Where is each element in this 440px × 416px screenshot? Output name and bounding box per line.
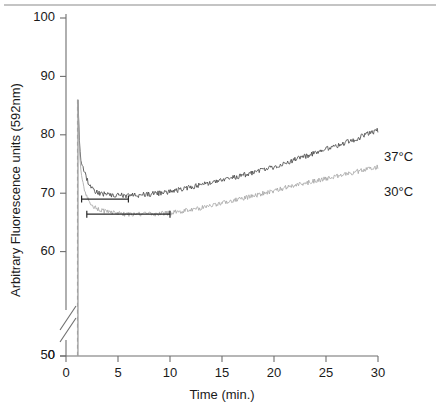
y-axis-ticks: 05060708090100 bbox=[33, 9, 66, 362]
x-tick-label: 25 bbox=[319, 365, 333, 380]
series-labels: 37°C 30°C bbox=[384, 149, 413, 199]
x-tick-label: 20 bbox=[267, 365, 281, 380]
x-tick-label: 10 bbox=[163, 365, 177, 380]
x-tick-label: 0 bbox=[62, 365, 69, 380]
axis-break-mark-upper bbox=[60, 306, 76, 330]
x-tick-label: 15 bbox=[215, 365, 229, 380]
data-curves bbox=[77, 100, 377, 356]
annotation-bar-upper bbox=[82, 196, 129, 203]
y-axis-title: Arbitrary Fluorescence units (592nm) bbox=[8, 83, 23, 297]
y-tick-label: 80 bbox=[41, 126, 55, 141]
axis-lines bbox=[60, 14, 378, 356]
y-tick-label: 90 bbox=[41, 68, 55, 83]
series-label-37c: 37°C bbox=[384, 149, 413, 164]
y-tick-label: 100 bbox=[33, 9, 55, 24]
y-tick-label: 50 bbox=[41, 347, 55, 362]
chart-figure: 05060708090100 051015202530 37°C 30°C Ti… bbox=[0, 0, 440, 416]
axis-break-mark-lower bbox=[60, 318, 76, 342]
y-tick-label: 60 bbox=[41, 243, 55, 258]
x-tick-label: 5 bbox=[114, 365, 121, 380]
x-axis-ticks: 051015202530 bbox=[62, 356, 385, 380]
x-tick-label: 30 bbox=[371, 365, 385, 380]
x-axis-title: Time (min.) bbox=[189, 387, 254, 402]
curve-37c bbox=[78, 100, 378, 198]
y-tick-label: 70 bbox=[41, 185, 55, 200]
series-label-30c: 30°C bbox=[384, 184, 413, 199]
